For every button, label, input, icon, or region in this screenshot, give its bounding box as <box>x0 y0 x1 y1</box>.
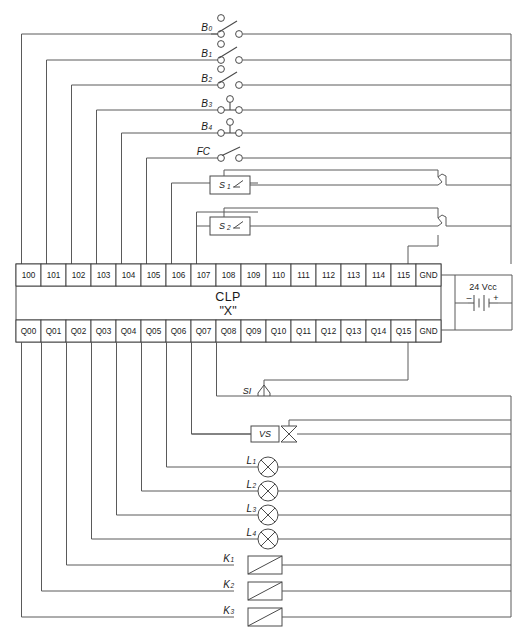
device-sublabel-L3: 3 <box>253 506 257 513</box>
input-device-B2[interactable]: B 2 <box>201 66 511 89</box>
input-terminal-label-106: 106 <box>172 271 186 280</box>
input-device-B3[interactable]: B 3 <box>201 96 511 114</box>
device-label-B4: B <box>201 121 208 132</box>
switch-no-node-FC <box>236 155 243 162</box>
input-terminal-label-101: 101 <box>47 271 61 280</box>
input-terminal-label-115: 115 <box>397 271 410 280</box>
device-sublabel-L2: 2 <box>252 482 257 489</box>
input-terminal-label-100: 100 <box>22 271 36 280</box>
output-terminal-label-q10: Q10 <box>271 327 287 336</box>
power-supply-negative: – <box>466 293 471 303</box>
output-device-L2[interactable]: L 2 <box>246 479 511 501</box>
plc-title-line1: CLP <box>215 290 241 304</box>
input-terminal-label-109: 109 <box>247 271 261 280</box>
output-terminal-label-gnd: GND <box>419 327 437 336</box>
device-sublabel-K2: 2 <box>230 582 235 589</box>
output-terminal-label-q09: Q09 <box>246 327 262 336</box>
output-terminal-label-q13: Q13 <box>346 327 362 336</box>
device-sublabel-B3: 3 <box>209 101 213 108</box>
output-device-L1[interactable]: L 1 <box>246 455 511 477</box>
device-label-S2: S <box>219 221 225 231</box>
output-terminal-row: Q00Q01Q02Q03Q04Q05Q06Q07Q08Q09Q10Q11Q12Q… <box>16 320 441 342</box>
device-label-B1: B <box>201 48 208 59</box>
input-terminal-label-108: 108 <box>222 271 236 280</box>
diagram-canvas: B 0 B 1 B 2 B <box>0 0 529 639</box>
device-label-L4: L <box>246 527 252 538</box>
output-terminal-label-q03: Q03 <box>96 327 112 336</box>
output-terminal-label-q04: Q04 <box>121 327 137 336</box>
input-device-B0[interactable]: B 0 <box>201 15 511 38</box>
device-label-L2: L <box>246 479 252 490</box>
input-terminal-label-111: 111 <box>297 271 310 280</box>
plc-title-line2: "X" <box>219 304 236 318</box>
input-terminal-label-gnd: GND <box>419 271 437 280</box>
output-device-K2[interactable]: K 2 <box>223 579 511 600</box>
output-terminal-label-q05: Q05 <box>146 327 162 336</box>
valve-symbol-icon <box>281 426 297 442</box>
output-device-L3[interactable]: L 3 <box>246 503 511 525</box>
switch-no-node-B1 <box>236 57 243 64</box>
switch-common-node-FC <box>218 155 225 162</box>
device-label-SI: SI <box>243 386 252 396</box>
switch-common-node-B4 <box>218 130 225 137</box>
output-gnd-bus <box>264 342 408 396</box>
input-device-B1[interactable]: B 1 <box>201 41 511 64</box>
switch-upper-node-B4 <box>227 119 234 126</box>
switch-upper-node-B1 <box>218 41 225 48</box>
output-drop-wires <box>22 342 259 617</box>
switch-no-node-B0 <box>236 31 243 38</box>
input-terminal-label-107: 107 <box>197 271 211 280</box>
input-terminal-label-113: 113 <box>347 271 360 280</box>
switch-upper-node-B3 <box>227 96 234 103</box>
output-terminal-label-q07: Q07 <box>196 327 212 336</box>
output-terminal-label-q15: Q15 <box>396 327 412 336</box>
switch-upper-node-B0 <box>218 15 225 22</box>
device-sublabel-S2: 2 <box>226 224 231 231</box>
device-label-L1: L <box>246 455 252 466</box>
sensor-gnd-feed <box>408 235 438 264</box>
input-terminal-label-102: 102 <box>72 271 86 280</box>
input-terminal-label-104: 104 <box>122 271 136 280</box>
device-label-B2: B <box>201 73 208 84</box>
input-device-S1[interactable]: S 1 <box>210 170 511 194</box>
output-terminal-label-q14: Q14 <box>371 327 387 336</box>
device-label-B0: B <box>201 22 208 33</box>
switch-upper-node-B2 <box>218 66 225 73</box>
device-sublabel-K3: 3 <box>231 608 235 615</box>
power-supply: 24 Vcc – + <box>441 275 512 330</box>
switch-common-node-B0 <box>218 31 225 38</box>
output-device-K1[interactable]: K 1 <box>223 553 511 574</box>
device-label-S1: S <box>219 180 225 190</box>
input-device-FC[interactable]: FC <box>197 146 511 162</box>
output-device-SI[interactable]: SI <box>243 385 511 396</box>
device-label-L3: L <box>246 503 252 514</box>
device-sublabel-B1: 1 <box>209 51 213 58</box>
device-label-VS: VS <box>259 429 271 439</box>
output-terminal-label-q00: Q00 <box>21 327 37 336</box>
output-device-VS[interactable]: VS <box>192 420 512 442</box>
output-terminal-label-q11: Q11 <box>296 327 311 336</box>
switch-common-node-B1 <box>218 57 225 64</box>
output-device-L4[interactable]: L 4 <box>246 527 511 549</box>
output-terminal-label-q02: Q02 <box>71 327 87 336</box>
output-terminal-label-q08: Q08 <box>221 327 237 336</box>
output-terminal-label-q06: Q06 <box>171 327 187 336</box>
device-sublabel-B0: 0 <box>209 25 213 32</box>
input-terminal-label-110: 110 <box>272 271 285 280</box>
device-sublabel-L4: 4 <box>253 530 257 537</box>
device-sublabel-S1: 1 <box>227 183 231 190</box>
switch-common-node-B3 <box>218 107 225 114</box>
device-label-B3: B <box>201 98 208 109</box>
output-terminal-label-q12: Q12 <box>321 327 337 336</box>
switch-no-node-B2 <box>236 82 243 89</box>
output-device-K3[interactable]: K 3 <box>223 605 511 626</box>
device-sublabel-K1: 1 <box>231 556 235 563</box>
power-supply-label: 24 Vcc <box>469 282 497 292</box>
input-device-B4[interactable]: B 4 <box>201 119 511 137</box>
output-terminal-label-q01: Q01 <box>46 327 62 336</box>
input-terminal-label-103: 103 <box>97 271 111 280</box>
power-supply-positive: + <box>493 293 498 303</box>
device-sublabel-B4: 4 <box>209 124 213 131</box>
device-label-FC: FC <box>197 146 211 157</box>
plc-wiring-diagram: B 0 B 1 B 2 B <box>0 0 529 639</box>
